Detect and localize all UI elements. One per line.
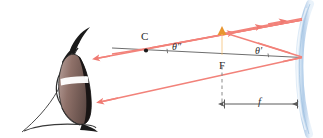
ray-reflected-upper-head <box>96 56 110 59</box>
center-of-curvature-label: C <box>141 31 149 42</box>
angle-label-right: θ′ <box>255 46 262 56</box>
observer-eye <box>22 27 98 132</box>
ray-through-focus-right <box>222 19 302 35</box>
center-of-curvature-point <box>144 48 148 52</box>
optics-ray-diagram-figure: C F θ″ θ′ f <box>0 0 323 138</box>
light-rays <box>96 19 302 103</box>
concave-mirror <box>297 4 310 134</box>
focal-length-label: f <box>258 96 261 107</box>
angle-tick-right <box>268 54 269 58</box>
ray-reflected-lower-head <box>100 98 118 102</box>
angle-label-left: θ″ <box>172 42 181 52</box>
figure-canvas <box>0 0 323 138</box>
object-arrow-at-focal-point <box>218 26 227 56</box>
ray-reflected-lower <box>100 58 302 103</box>
ray-vertex-to-focus-head <box>258 43 290 53</box>
angle-tick-left <box>167 49 168 53</box>
focal-point-label: F <box>219 60 225 71</box>
